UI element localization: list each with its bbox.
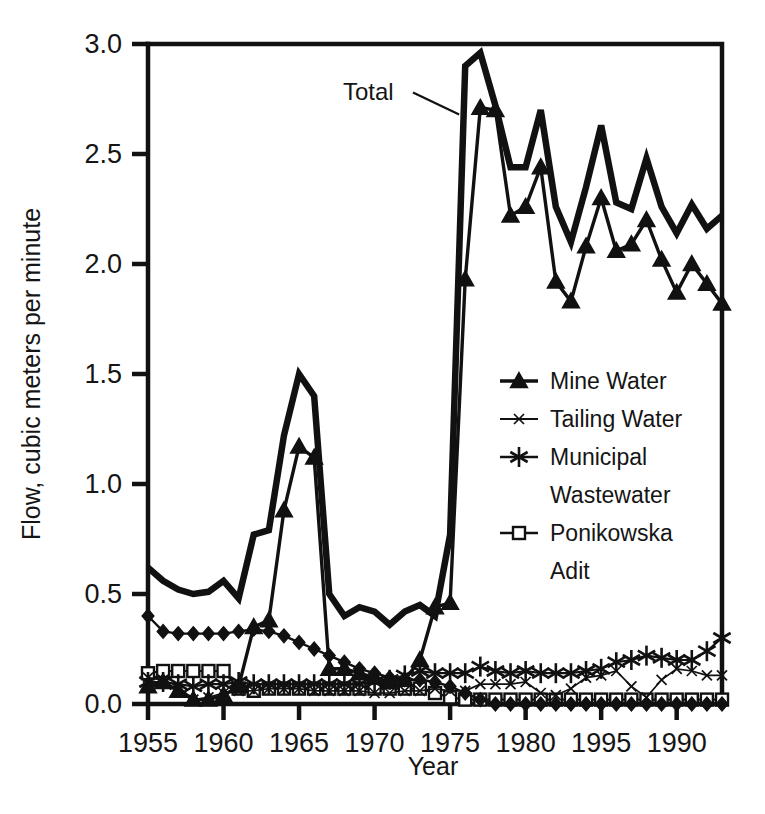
legend-label-cont: Adit [550,558,590,584]
y-tick-label: 3.0 [84,29,122,59]
y-axis-title: Flow, cubic meters per minute [17,208,45,540]
x-tick-label: 1965 [269,728,329,758]
y-tick-label: 1.0 [84,469,122,499]
legend-label: Mine Water [550,368,667,394]
x-tick-label: 1990 [647,728,707,758]
y-tick-label: 1.5 [84,359,122,389]
x-axis-title: Year [408,752,459,780]
y-tick-label: 0.5 [84,579,122,609]
legend-label: Municipal [550,444,647,470]
legend-label: Tailing Water [550,406,682,432]
legend-label: Ponikowska [550,520,673,546]
figure-container: 0.00.51.01.52.02.53.0 195519601965197019… [0,0,765,814]
legend-label-cont: Wastewater [550,482,671,508]
y-tick-label: 2.0 [84,249,122,279]
x-tick-label: 1995 [571,728,631,758]
x-tick-label: 1960 [193,728,253,758]
x-tick-label: 1970 [345,728,405,758]
marker-square [513,527,525,539]
y-tick-label: 0.0 [84,689,122,719]
annotation-total-label: Total [343,78,394,105]
x-tick-label: 1980 [496,728,556,758]
marker-square [187,665,199,677]
y-tick-label: 2.5 [84,139,122,169]
x-tick-label: 1955 [118,728,178,758]
line-chart: 0.00.51.01.52.02.53.0 195519601965197019… [0,0,765,814]
